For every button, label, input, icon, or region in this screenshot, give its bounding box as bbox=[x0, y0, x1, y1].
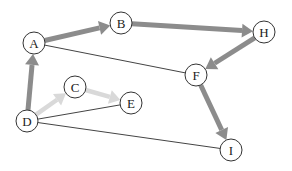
edge-f-i bbox=[201, 85, 228, 140]
edge-b-h bbox=[132, 24, 253, 38]
node-label: A bbox=[29, 36, 39, 51]
edge-h-f bbox=[205, 38, 254, 69]
edge-d-c bbox=[36, 93, 66, 114]
node-label: B bbox=[117, 16, 126, 31]
edge-c-e bbox=[86, 90, 121, 104]
node-label: F bbox=[192, 68, 199, 83]
node-b: B bbox=[110, 12, 132, 34]
node-d: D bbox=[16, 110, 38, 132]
node-c: C bbox=[64, 76, 86, 98]
arrowhead-icon bbox=[25, 54, 39, 66]
node-label: H bbox=[259, 25, 268, 40]
nodes-layer: ABHFCEDI bbox=[16, 12, 275, 161]
edge-a-b bbox=[45, 21, 111, 40]
node-label: E bbox=[127, 96, 135, 111]
node-label: I bbox=[229, 143, 233, 158]
graph-diagram: ABHFCEDI bbox=[0, 0, 292, 171]
edge-d-a bbox=[25, 54, 39, 110]
edge-d-i bbox=[38, 123, 220, 149]
node-label: D bbox=[22, 114, 31, 129]
node-i: I bbox=[220, 139, 242, 161]
node-f: F bbox=[185, 64, 207, 86]
node-e: E bbox=[120, 92, 142, 114]
arrowhead-icon bbox=[98, 21, 110, 35]
arrowhead-icon bbox=[242, 24, 253, 38]
node-a: A bbox=[23, 32, 45, 54]
edges-layer bbox=[25, 21, 255, 148]
node-label: C bbox=[71, 80, 80, 95]
node-h: H bbox=[253, 21, 275, 43]
edge-a-f bbox=[45, 45, 185, 73]
